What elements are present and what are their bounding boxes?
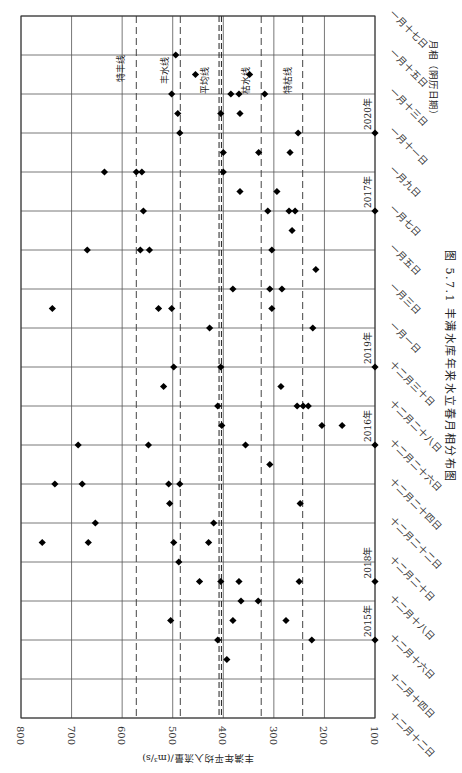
data-point: [172, 51, 179, 58]
data-point: [75, 441, 82, 448]
data-point: [206, 324, 213, 331]
data-point: [229, 617, 236, 624]
data-point: [282, 617, 289, 624]
data-point: [273, 188, 280, 195]
data-point: [92, 519, 99, 526]
year-label: 2018年: [362, 547, 373, 579]
data-point: [235, 578, 242, 585]
data-point: [255, 597, 262, 604]
data-points: [39, 51, 346, 663]
data-point: [295, 129, 302, 136]
data-point: [268, 305, 275, 312]
data-point: [223, 656, 230, 663]
data-point: [155, 305, 162, 312]
year-label: 2016年: [362, 410, 373, 442]
data-point: [261, 90, 268, 97]
data-point: [79, 480, 86, 487]
data-point: [264, 207, 271, 214]
data-point: [227, 90, 234, 97]
data-point: [170, 539, 177, 546]
data-point: [85, 539, 92, 546]
data-point: [268, 246, 275, 253]
data-point: [165, 480, 172, 487]
data-point: [210, 519, 217, 526]
data-point: [51, 480, 58, 487]
data-point: [176, 129, 183, 136]
data-point: [229, 285, 236, 292]
flow-tick-label: 200: [318, 726, 329, 745]
data-point: [166, 500, 173, 507]
year-markers: 2015年2018年2016年2019年2017年2020年: [362, 98, 379, 644]
flow-axis-ticks: 800700600500400300200100: [15, 726, 380, 745]
date-tick-label: 一月三日: [388, 281, 424, 317]
reference-line-label: 特丰线: [115, 55, 126, 82]
data-point: [49, 305, 56, 312]
data-point: [266, 461, 273, 468]
date-tick-label: 一月十七日: [388, 8, 431, 51]
date-tick-label: 一月九日: [388, 164, 424, 200]
data-point: [196, 578, 203, 585]
data-point: [339, 422, 346, 429]
data-point: [278, 285, 285, 292]
data-point: [214, 636, 221, 643]
data-point: [266, 285, 273, 292]
date-tick-label: 一月五日: [388, 242, 424, 278]
data-point: [168, 305, 175, 312]
reference-line-label: 丰水线: [159, 57, 170, 84]
data-point: [305, 402, 312, 409]
date-tick-label: 一月十五日: [388, 47, 431, 90]
data-point: [309, 324, 316, 331]
data-point: [175, 558, 182, 565]
reference-line-label: 平均线: [199, 67, 210, 94]
data-point: [288, 227, 295, 234]
data-point: [168, 90, 175, 97]
horizontal-grid: [21, 16, 375, 718]
data-point: [220, 168, 227, 175]
flow-tick-label: 700: [66, 726, 77, 745]
flow-tick-label: 300: [268, 726, 279, 745]
data-point: [39, 539, 46, 546]
data-point: [170, 363, 177, 370]
data-point: [160, 383, 167, 390]
year-label: 2015年: [362, 605, 373, 637]
flow-tick-label: 500: [167, 726, 178, 745]
date-tick-label: 一月七日: [388, 203, 424, 239]
data-point: [308, 636, 315, 643]
figure-caption: 图 5.7.1 丰满水库年来水立春月相分布图: [443, 250, 457, 483]
data-point: [291, 207, 298, 214]
data-point: [296, 578, 303, 585]
data-point: [176, 480, 183, 487]
flow-tick-label: 100: [369, 726, 380, 745]
date-axis-title: 月相（阴历日期）: [428, 40, 439, 120]
data-point: [138, 168, 145, 175]
data-point: [167, 617, 174, 624]
data-point: [242, 441, 249, 448]
reference-line-label: 特枯线: [282, 67, 293, 94]
date-tick-label: 一月十三日: [388, 86, 431, 129]
data-point: [101, 168, 108, 175]
date-tick-label: 一月十一日: [388, 125, 431, 168]
data-point: [192, 71, 199, 78]
data-point: [137, 246, 144, 253]
flow-axis-title: 丰满年平均入流量/(m³/s): [142, 753, 254, 764]
flow-tick-label: 600: [116, 726, 127, 745]
data-point: [220, 149, 227, 156]
data-point: [312, 266, 319, 273]
flow-tick-label: 800: [15, 726, 26, 745]
data-point: [84, 246, 91, 253]
moon-phase-scatter-chart: 特丰线丰水线平均线枯水线特枯线 2015年2018年2016年2019年2017…: [0, 0, 462, 773]
data-point: [205, 539, 212, 546]
data-point: [146, 246, 153, 253]
year-label: 2019年: [362, 332, 373, 364]
data-point: [140, 207, 147, 214]
data-point: [237, 597, 244, 604]
data-point: [286, 149, 293, 156]
data-point: [236, 110, 243, 117]
data-point: [214, 402, 221, 409]
data-point: [236, 188, 243, 195]
year-label: 2017年: [362, 176, 373, 208]
date-tick-label: 一月一日: [388, 320, 424, 356]
data-point: [145, 441, 152, 448]
year-label: 2020年: [362, 98, 373, 130]
flow-tick-label: 400: [217, 726, 228, 745]
